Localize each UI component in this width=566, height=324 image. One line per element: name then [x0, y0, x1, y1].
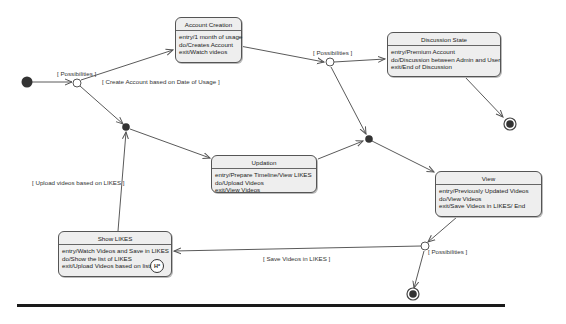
guard-possibilities-1: [ Possibilities ] [57, 70, 96, 77]
edge-choice-to-junction [80, 86, 123, 124]
edge-junction-to-updation [130, 129, 210, 158]
edge-choice-to-discussion [334, 59, 385, 62]
entry-action: entry/Prepare Timeline/View LIKES [215, 171, 313, 178]
initial-node [22, 77, 33, 88]
state-discussion: Discussion State entry/Premium Account d… [387, 32, 501, 77]
deep-history-icon: H* [150, 259, 164, 273]
guard-possibilities-2: [ Possibilities ] [313, 49, 352, 56]
entry-action: entry/Watch Videos and Save in LIKES [62, 247, 168, 254]
do-action: do/Discussion between Admin and User [391, 56, 497, 63]
do-action: do/Creates Account [179, 41, 238, 48]
do-action: do/Upload Videos [215, 179, 313, 186]
state-title: Discussion State [388, 33, 500, 46]
state-diagram: Account Creation entry/1 month of usage … [0, 0, 566, 324]
final-node-2 [407, 288, 419, 300]
final-node-1 [504, 118, 516, 130]
guard-upload-videos: [ Upload videos based on LIKES ] [32, 179, 125, 186]
state-show-likes: Show LIKES entry/Watch Videos and Save i… [58, 231, 172, 277]
edge-updation-to-junction2 [318, 141, 363, 159]
state-updation: Updation entry/Prepare Timeline/View LIK… [211, 155, 317, 193]
guard-save-videos: [ Save Videos in LIKES ] [263, 255, 330, 262]
state-title: Show LIKES [59, 232, 171, 245]
state-title: Updation [212, 156, 316, 169]
choice-node-2 [326, 58, 334, 66]
state-account-creation: Account Creation entry/1 month of usage … [175, 17, 242, 63]
edge-choice-to-final2 [414, 251, 424, 288]
guard-possibilities-3: [ Possibilities ] [428, 248, 467, 255]
edge-choice-to-junction2 [331, 67, 366, 134]
junction-node-2 [365, 135, 373, 143]
state-view: View entry/Previously Updated Videos do/… [435, 171, 542, 217]
choice-node-1 [73, 79, 81, 87]
exit-action: exit/View Videos [215, 186, 313, 193]
edge-account-creation-to-choice [240, 46, 324, 62]
exit-action: exit/End of Discussion [391, 63, 497, 70]
state-title: View [436, 172, 541, 185]
state-title: Account Creation [176, 18, 241, 31]
exit-action: exit/Watch videos [179, 48, 238, 55]
edge-discussion-to-final [465, 77, 503, 117]
entry-action: entry/Previously Updated Videos [439, 187, 538, 194]
do-action: do/View Videos [439, 195, 538, 202]
separator-rule [17, 304, 505, 307]
edge-view-to-choice [428, 217, 457, 242]
exit-action: exit/Save Videos in LIKES/ End [439, 202, 538, 209]
guard-create-account: [ Create Account based on Date of Usage … [102, 78, 220, 85]
entry-action: entry/Premium Account [391, 48, 497, 55]
edge-junction2-to-view [372, 141, 434, 172]
edge-choice-to-show-likes [174, 246, 421, 251]
entry-action: entry/1 month of usage [179, 33, 238, 40]
junction-node-1 [122, 123, 130, 131]
